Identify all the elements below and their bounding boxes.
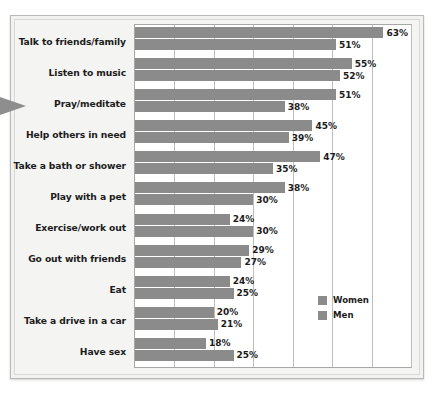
legend-label: Men (333, 310, 354, 320)
category-label: Take a drive in a car (24, 315, 126, 326)
bar-women: 47% (135, 151, 320, 162)
bar-men: 30% (135, 194, 253, 205)
bar-value-label: 25% (237, 288, 259, 298)
bar-men: 21% (135, 319, 218, 330)
bar-row: Have sex18%25% (135, 336, 411, 367)
bar-value-label: 27% (244, 257, 266, 267)
bar-men: 25% (135, 288, 234, 299)
bar-row: Help others in need45%39% (135, 118, 411, 149)
plot-area: Talk to friends/family63%51%Listen to mu… (134, 24, 412, 368)
bar-women: 51% (135, 89, 336, 100)
bar-men: 39% (135, 132, 289, 143)
bar-value-label: 51% (339, 40, 361, 50)
bar-value-label: 30% (256, 195, 278, 205)
bar-value-label: 35% (276, 164, 298, 174)
bar-value-label: 45% (315, 121, 337, 131)
legend-item-women: Women (318, 295, 369, 305)
bar-value-label: 24% (233, 214, 255, 224)
bar-men: 35% (135, 163, 273, 174)
bar-value-label: 25% (237, 350, 259, 360)
bar-value-label: 63% (386, 28, 408, 38)
gridline-70 (411, 25, 412, 367)
bar-women: 20% (135, 307, 214, 318)
bar-row: Play with a pet38%30% (135, 180, 411, 211)
category-label: Help others in need (26, 128, 126, 139)
bar-value-label: 24% (233, 276, 255, 286)
bar-value-label: 55% (355, 59, 377, 69)
bar-women: 24% (135, 276, 230, 287)
bar-value-label: 30% (256, 226, 278, 236)
category-label: Have sex (80, 346, 126, 357)
category-label: Play with a pet (50, 190, 126, 201)
bar-value-label: 47% (323, 152, 345, 162)
bar-value-label: 51% (339, 90, 361, 100)
bar-men: 27% (135, 257, 241, 268)
bar-women: 24% (135, 214, 230, 225)
bar-women: 38% (135, 182, 285, 193)
category-label: Talk to friends/family (19, 35, 126, 46)
category-label: Eat (109, 284, 126, 295)
chart-legend: WomenMen (318, 295, 369, 325)
bar-value-label: 39% (292, 133, 314, 143)
bar-value-label: 38% (288, 102, 310, 112)
category-label: Go out with friends (28, 253, 126, 264)
bar-women: 18% (135, 338, 206, 349)
bar-value-label: 21% (221, 319, 243, 329)
bar-women: 45% (135, 120, 312, 131)
legend-item-men: Men (318, 310, 369, 320)
bar-row: Go out with friends29%27% (135, 243, 411, 274)
bar-row: Exercise/work out24%30% (135, 212, 411, 243)
bar-value-label: 29% (252, 245, 274, 255)
legend-swatch-icon (318, 311, 327, 320)
bar-men: 38% (135, 101, 285, 112)
bar-row: Listen to music55%52% (135, 56, 411, 87)
category-label: Listen to music (49, 66, 126, 77)
bar-men: 30% (135, 226, 253, 237)
chart-figure: Talk to friends/family63%51%Listen to mu… (10, 15, 424, 379)
bar-value-label: 52% (343, 71, 365, 81)
category-label: Pray/meditate (54, 97, 126, 108)
legend-swatch-icon (318, 296, 327, 305)
category-label: Exercise/work out (35, 222, 126, 233)
bar-men: 51% (135, 39, 336, 50)
bar-value-label: 20% (217, 307, 239, 317)
bar-women: 55% (135, 58, 352, 69)
bar-row: Take a drive in a car20%21% (135, 305, 411, 336)
bar-men: 52% (135, 70, 340, 81)
bar-row: Eat24%25% (135, 274, 411, 305)
legend-label: Women (333, 295, 369, 305)
bar-row: Pray/meditate51%38% (135, 87, 411, 118)
category-label: Take a bath or shower (14, 159, 126, 170)
bar-value-label: 38% (288, 183, 310, 193)
bar-row: Take a bath or shower47%35% (135, 149, 411, 180)
bar-women: 29% (135, 245, 249, 256)
bar-row: Talk to friends/family63%51% (135, 25, 411, 56)
bar-value-label: 18% (209, 338, 231, 348)
left-pointer-arrow-icon (0, 97, 26, 115)
bar-men: 25% (135, 350, 234, 361)
bar-rows: Talk to friends/family63%51%Listen to mu… (135, 25, 411, 367)
bar-women: 63% (135, 27, 383, 38)
